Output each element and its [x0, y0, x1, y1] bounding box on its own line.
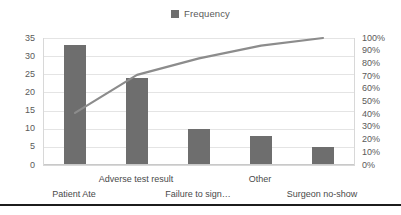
y-axis-right-tick: 90% — [362, 46, 380, 55]
y-axis-right-tick: 30% — [362, 122, 380, 131]
chart-legend: Frequency — [0, 5, 401, 23]
y-axis-right-tick: 40% — [362, 110, 380, 119]
y-axis-left-tick: 30 — [25, 52, 35, 61]
y-axis-left-tick: 5 — [30, 142, 35, 151]
x-axis-category-labels: Patient AteAdverse test resultFailure to… — [0, 166, 401, 206]
y-axis-right-tick: 100% — [362, 34, 385, 43]
y-axis-right-tick: 60% — [362, 84, 380, 93]
x-axis-category-label: Patient Ate — [52, 190, 96, 199]
x-axis-category-label: Failure to sign… — [165, 190, 231, 199]
x-axis-category-label: Adverse test result — [99, 175, 174, 184]
x-axis-baseline — [44, 164, 354, 165]
y-axis-left-tick: 10 — [25, 124, 35, 133]
cumulative-line — [75, 38, 323, 113]
legend-label-frequency: Frequency — [184, 9, 230, 19]
bottom-divider — [0, 204, 401, 206]
y-axis-right-tick: 20% — [362, 135, 380, 144]
y-axis-left-tick: 35 — [25, 34, 35, 43]
x-axis-category-label: Surgeon no-show — [287, 190, 358, 199]
y-axis-right-tick: 10% — [362, 148, 380, 157]
cumulative-line-layer — [44, 38, 354, 165]
y-axis-left-tick: 20 — [25, 88, 35, 97]
y-axis-right-tick: 80% — [362, 59, 380, 68]
y-axis-left-tick: 25 — [25, 70, 35, 79]
y-axis-right-tick: 70% — [362, 72, 380, 81]
legend-swatch-frequency — [171, 10, 179, 18]
plot-area — [43, 38, 355, 166]
y-axis-right-tick: 50% — [362, 97, 380, 106]
y-axis-left: 05101520253035 — [0, 38, 39, 166]
y-axis-left-tick: 15 — [25, 106, 35, 115]
x-axis-category-label: Other — [249, 175, 272, 184]
pareto-chart: Frequency 05101520253035 0%10%20%30%40%5… — [0, 0, 401, 215]
y-axis-right: 0%10%20%30%40%50%60%70%80%90%100% — [359, 38, 401, 166]
